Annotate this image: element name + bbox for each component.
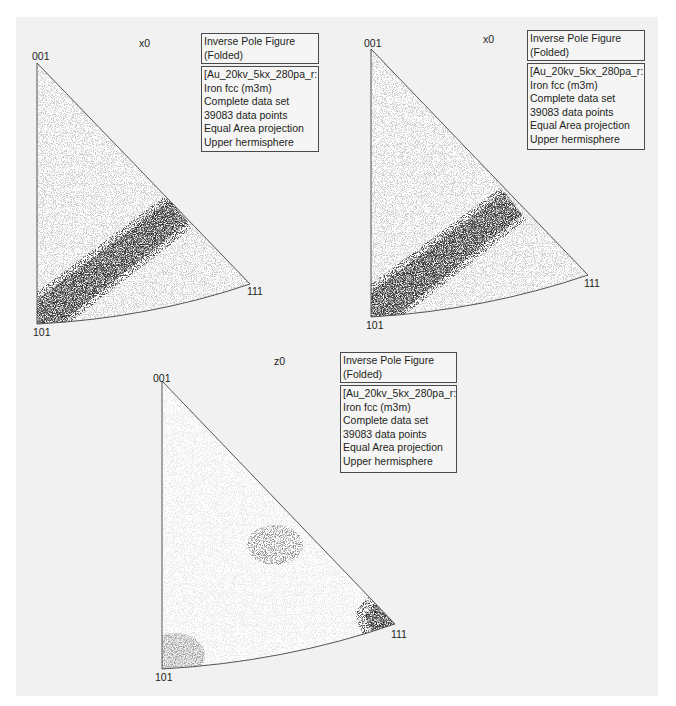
info-line: 39083 data points (530, 106, 642, 120)
info-line: Equal Area projection (343, 441, 454, 455)
info-line: [Au_20kv_5kx_280pa_r: (530, 65, 642, 79)
info-box-panel-1: [Au_20kv_5kx_280pa_r: Iron fcc (m3m) Com… (201, 66, 319, 152)
info-line: [Au_20kv_5kx_280pa_r: (204, 68, 316, 82)
info-line: Upper hermisphere (343, 455, 454, 469)
info-line: 39083 data points (343, 428, 454, 442)
info-line: 39083 data points (204, 109, 316, 123)
title-line: Inverse Pole Figure (204, 35, 316, 49)
info-line: Upper hermisphere (530, 133, 642, 147)
vertex-label-111: 111 (391, 628, 407, 640)
title-line: Inverse Pole Figure (343, 354, 454, 368)
vertex-label-001: 001 (364, 37, 382, 49)
info-line: Iron fcc (m3m) (530, 79, 642, 93)
vertex-label-101: 101 (366, 319, 384, 331)
info-line: Equal Area projection (204, 122, 316, 136)
vertex-label-101: 101 (33, 326, 51, 338)
title-box-panel-1: Inverse Pole Figure (Folded) (201, 33, 319, 64)
vertex-label-111: 111 (247, 285, 263, 297)
info-line: Iron fcc (m3m) (343, 401, 454, 415)
info-box-panel-2: [Au_20kv_5kx_280pa_r: Iron fcc (m3m) Com… (527, 63, 645, 150)
direction-label-panel-2: x0 (483, 33, 494, 45)
title-line: (Folded) (530, 46, 642, 60)
info-line: [Au_20kv_5kx_280pa_r: (343, 387, 454, 401)
info-box-panel-3: [Au_20kv_5kx_280pa_r: Iron fcc (m3m) Com… (340, 385, 457, 473)
info-line: Iron fcc (m3m) (204, 82, 316, 96)
title-line: (Folded) (204, 49, 316, 63)
title-line: (Folded) (343, 368, 454, 382)
vertex-label-111: 111 (584, 277, 600, 289)
info-line: Upper hermisphere (204, 136, 316, 150)
title-box-panel-3: Inverse Pole Figure (Folded) (340, 352, 457, 383)
direction-label-panel-1: x0 (139, 37, 150, 49)
title-box-panel-2: Inverse Pole Figure (Folded) (527, 30, 645, 61)
title-line: Inverse Pole Figure (530, 32, 642, 46)
info-line: Complete data set (530, 92, 642, 106)
vertex-label-101: 101 (155, 671, 173, 683)
direction-label-panel-3: z0 (274, 355, 285, 367)
info-line: Equal Area projection (530, 119, 642, 133)
vertex-label-001: 001 (32, 50, 50, 62)
info-line: Complete data set (343, 414, 454, 428)
vertex-label-001: 001 (153, 372, 171, 384)
info-line: Complete data set (204, 95, 316, 109)
